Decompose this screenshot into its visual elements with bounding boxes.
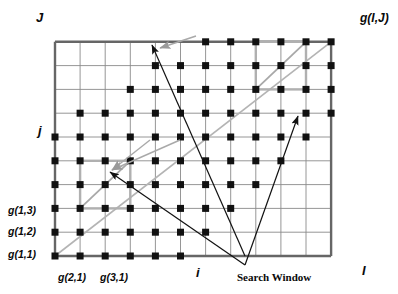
lattice-node xyxy=(252,110,259,117)
node-label-21: g(2,1) xyxy=(58,272,86,283)
figure-stage: J j i I g(I,J) g(1,3)g(1,2)g(1,1)g(2,1)g… xyxy=(0,0,398,294)
lattice-node xyxy=(102,134,109,141)
lattice-node xyxy=(277,62,284,69)
lattice-node xyxy=(152,86,159,93)
lattice-node xyxy=(328,86,335,93)
lattice-node xyxy=(303,110,310,117)
lattice-node xyxy=(77,181,84,188)
axis-label-J: J xyxy=(36,11,43,24)
lattice-node xyxy=(252,157,259,164)
axis-label-I: I xyxy=(362,264,366,277)
lattice-node xyxy=(177,181,184,188)
lattice-node xyxy=(152,157,159,164)
lattice-node xyxy=(252,62,259,69)
lattice-node xyxy=(102,157,109,164)
lattice-node xyxy=(328,62,335,69)
lattice-node xyxy=(152,205,159,212)
lattice-node xyxy=(303,38,310,45)
lattice-node xyxy=(127,134,134,141)
lattice-node xyxy=(202,38,209,45)
lattice-diagram xyxy=(0,0,398,294)
lattice-node xyxy=(127,253,134,260)
lattice-node xyxy=(252,38,259,45)
lattice-node xyxy=(77,110,84,117)
lattice-node xyxy=(177,253,184,260)
lattice-node xyxy=(202,62,209,69)
lattice-node xyxy=(303,86,310,93)
search-window-rectangles xyxy=(80,42,306,209)
diagonal-guide-line xyxy=(55,42,331,256)
lattice-node xyxy=(177,205,184,212)
lattice-node xyxy=(127,205,134,212)
lattice-node xyxy=(202,86,209,93)
lattice-node xyxy=(227,157,234,164)
lattice-node xyxy=(52,181,59,188)
lattice-node xyxy=(102,110,109,117)
lattice-node xyxy=(177,62,184,69)
node-label-13: g(1,3) xyxy=(8,205,36,216)
lattice-node xyxy=(77,157,84,164)
lattice-node xyxy=(227,86,234,93)
axis-label-j: j xyxy=(38,124,42,137)
lattice-node xyxy=(303,62,310,69)
lattice-node xyxy=(277,134,284,141)
lattice-node xyxy=(152,181,159,188)
lattice-node xyxy=(77,229,84,236)
lattice-node xyxy=(177,229,184,236)
lattice-node xyxy=(328,38,335,45)
search-window-caption: Search Window xyxy=(237,272,311,283)
gray-pointer-lower-left-2 xyxy=(112,140,180,170)
lattice-node xyxy=(252,86,259,93)
node-label-12: g(1,2) xyxy=(8,226,36,237)
lattice-node xyxy=(202,134,209,141)
lattice-node xyxy=(328,110,335,117)
lattice-node xyxy=(303,134,310,141)
lattice-node xyxy=(227,134,234,141)
corner-label-gIJ: g(I,J) xyxy=(360,12,389,24)
lattice-node xyxy=(227,110,234,117)
lattice-node xyxy=(52,229,59,236)
lattice-node xyxy=(177,157,184,164)
lattice-node xyxy=(277,110,284,117)
lattice-node xyxy=(227,205,234,212)
lattice-node xyxy=(77,253,84,260)
lattice-node xyxy=(227,181,234,188)
lattice-node xyxy=(127,229,134,236)
lattice-node xyxy=(202,229,209,236)
lattice-node xyxy=(202,181,209,188)
lattice-node xyxy=(152,253,159,260)
lattice-node xyxy=(177,134,184,141)
lattice-node xyxy=(252,181,259,188)
axis-label-i: i xyxy=(196,266,200,279)
lattice-node xyxy=(102,253,109,260)
lattice-node xyxy=(52,134,59,141)
lattice-node xyxy=(202,110,209,117)
node-label-31: g(3,1) xyxy=(100,272,128,283)
lattice-node xyxy=(152,62,159,69)
lattice-node xyxy=(152,134,159,141)
lattice-node xyxy=(102,205,109,212)
lattice-node xyxy=(127,86,134,93)
node-label-11: g(1,1) xyxy=(8,249,36,260)
lattice-node xyxy=(152,229,159,236)
lattice-node xyxy=(52,253,59,260)
lattice-node xyxy=(102,229,109,236)
lattice-node xyxy=(52,205,59,212)
lattice-node xyxy=(277,38,284,45)
lattice-node xyxy=(177,86,184,93)
lattice-node xyxy=(52,157,59,164)
lattice-node xyxy=(202,205,209,212)
lattice-node xyxy=(102,181,109,188)
lattice-node xyxy=(227,62,234,69)
lattice-node xyxy=(152,110,159,117)
lattice-node xyxy=(77,205,84,212)
lattice-node xyxy=(252,134,259,141)
lattice-node xyxy=(77,134,84,141)
lattice-node xyxy=(127,110,134,117)
lattice-node xyxy=(227,38,234,45)
lattice-node xyxy=(277,86,284,93)
